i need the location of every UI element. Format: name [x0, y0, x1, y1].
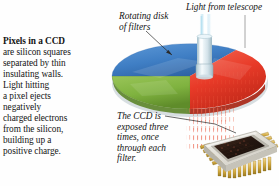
chip-pins-right [258, 132, 278, 150]
rotating-filter-disk [112, 44, 268, 117]
leader-rotating-disk [146, 31, 172, 55]
leader-arrowheads [166, 50, 172, 55]
caption-line-3: insulating walls. [3, 69, 111, 80]
caption-line-4: Light hitting [3, 80, 111, 91]
leader-ccd-exposed [165, 116, 236, 133]
label-ccd-exposed-line-2: exposed three [117, 122, 168, 133]
caption-line-1: are silicon squares [3, 47, 111, 58]
blue-filter-wedge [112, 44, 236, 76]
label-rotating-disk-line-2: of filters [119, 22, 168, 33]
caption-line-5: a pixel ejects [3, 91, 111, 102]
label-ccd-exposed-line-1: The CCD is [117, 111, 168, 122]
red-filter-wedge [190, 50, 266, 109]
label-ccd-exposed-line-3: times, once [117, 132, 168, 143]
caption-line-9: building up a [3, 135, 111, 146]
disk-hub-tube [196, 34, 213, 79]
label-ccd-exposed-line-4: through each [117, 143, 168, 154]
caption-line-10: positive charge. [3, 146, 111, 157]
chip-pins-left [200, 143, 223, 165]
label-light-from-telescope-text: Light from telescope [186, 2, 262, 12]
chip-pins-front [218, 157, 271, 178]
caption-line-7: charged electrons [3, 113, 111, 124]
caption-block: Pixels in a CCD are silicon squares sepa… [3, 36, 111, 158]
ccd-sensor-chip [200, 131, 278, 178]
label-ccd-exposed-line-5: filter. [117, 153, 168, 164]
caption-line-6: negatively [3, 102, 111, 113]
telescope-light-beam [199, 14, 245, 66]
chip-body-top [204, 131, 277, 166]
filtered-light-shower [186, 104, 234, 150]
label-ccd-exposed-three-times: The CCD is exposed three times, once thr… [117, 111, 168, 164]
label-rotating-disk-of-filters: Rotating disk of filters [119, 11, 168, 32]
caption-lead: Pixels in a CCD [3, 36, 111, 47]
label-light-from-telescope: Light from telescope [186, 2, 262, 13]
ccd-filter-diagram: Pixels in a CCD are silicon squares sepa… [0, 0, 279, 186]
caption-line-2: separated by thin [3, 58, 111, 69]
chip-sensor-array [214, 136, 265, 159]
filtered-light-shower-upper [190, 100, 232, 114]
label-rotating-disk-line-1: Rotating disk [119, 11, 168, 22]
caption-line-8: from the silicon, [3, 124, 111, 135]
green-filter-wedge [112, 76, 190, 109]
